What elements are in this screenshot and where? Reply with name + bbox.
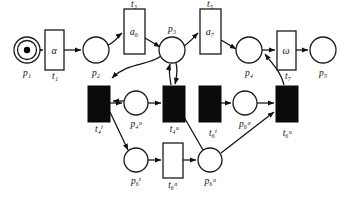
- transition-t4i[interactable]: [88, 86, 110, 122]
- arc-p2-t3: [108, 33, 122, 45]
- place-p6i-label: p₆ⁱ: [130, 176, 141, 186]
- arc-p3-t4i: [112, 56, 161, 78]
- transition-t6o[interactable]: [276, 86, 298, 122]
- place-p1-label: p₁: [22, 68, 31, 78]
- arc-t4o-p3: [169, 64, 171, 85]
- transition-t6i[interactable]: [199, 86, 221, 122]
- transition-t4i-label: t₄ⁱ: [95, 124, 103, 134]
- place-p3[interactable]: [159, 37, 185, 63]
- transition-t4o[interactable]: [163, 86, 185, 122]
- transition-t6o-label: t₆ᵒ: [283, 128, 293, 138]
- transition-t1-inner-label: α: [51, 45, 57, 56]
- place-p6a-label: p₆ᵃ: [238, 119, 251, 129]
- place-p4-label: p₄: [244, 68, 253, 78]
- arc-t4i-p6i: [110, 112, 128, 150]
- transition-t6a-label: t₆ᵃ: [168, 180, 178, 190]
- place-p5[interactable]: [310, 37, 336, 63]
- arc-t5-p4: [221, 40, 236, 49]
- transition-t4o-label: t₄ᵒ: [170, 124, 180, 134]
- place-p2-label: p₂: [91, 68, 101, 78]
- place-p3-label: p₃: [167, 24, 176, 34]
- place-p4a-label: p₄ᵒ: [130, 119, 143, 129]
- transition-t6a[interactable]: [163, 143, 183, 178]
- place-p2[interactable]: [83, 37, 109, 63]
- place-p6i[interactable]: [124, 148, 148, 172]
- arc-p3-t5: [184, 33, 198, 46]
- petri-net-canvas: α a₆ a₇ ω p₁ p₂ p₃ p₄ p₅ p₄ᵒ p₆ᵃ p₆ⁱ p₆ᵒ…: [0, 0, 341, 200]
- token-p1: [24, 47, 30, 53]
- petri-net-diagram: α a₆ a₇ ω p₁ p₂ p₃ p₄ p₅ p₄ᵒ p₆ᵃ p₆ⁱ p₆ᵒ…: [0, 0, 341, 200]
- place-p4a[interactable]: [124, 91, 148, 115]
- transition-t3-label: t₃: [131, 0, 137, 9]
- arc-p3-t4o: [175, 63, 177, 84]
- transition-t6i-label: t₆ⁱ: [209, 128, 217, 138]
- transitions-layer: [45, 9, 298, 178]
- transition-t5-inner-label: a₇: [206, 26, 215, 37]
- transition-t7-label: t₇: [285, 71, 292, 81]
- place-p6o[interactable]: [198, 148, 222, 172]
- place-p5-label: p₅: [318, 68, 327, 78]
- transition-t7-inner-label: ω: [282, 45, 289, 56]
- transition-t3-inner-label: a₆: [130, 26, 139, 37]
- place-p6o-label: p₆ᵒ: [204, 176, 217, 186]
- place-p4[interactable]: [236, 37, 262, 63]
- place-p6a[interactable]: [233, 91, 257, 115]
- transition-t1-label: t₁: [52, 71, 58, 81]
- arc-t3-p3: [145, 38, 160, 47]
- transition-t5-label: t₅: [207, 0, 213, 9]
